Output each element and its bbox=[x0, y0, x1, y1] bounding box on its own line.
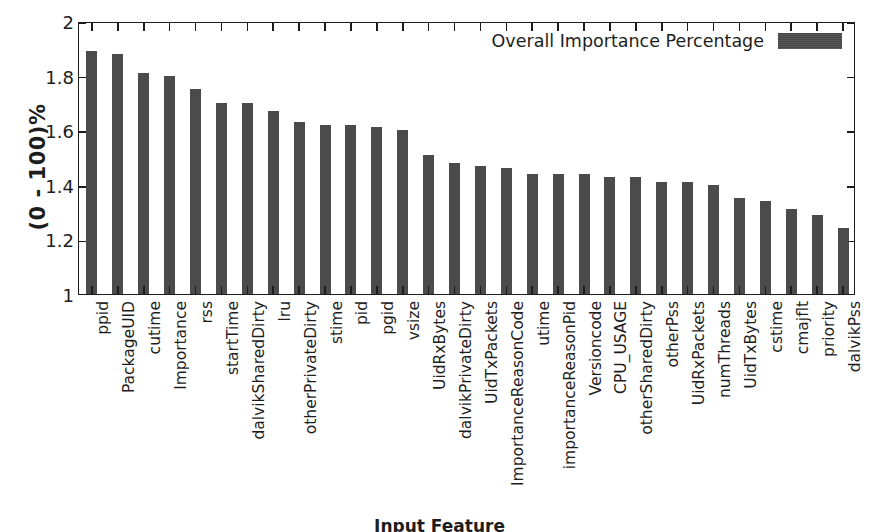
x-tick-label: dalvikSharedDirty bbox=[252, 301, 268, 440]
bar bbox=[294, 122, 305, 294]
x-tick-mark bbox=[272, 286, 274, 294]
bar bbox=[164, 76, 175, 294]
x-tick-mark bbox=[350, 286, 352, 294]
x-tick-label: rss bbox=[200, 301, 216, 324]
y-tick-mark bbox=[79, 131, 86, 133]
x-tick-mark bbox=[350, 23, 352, 31]
x-tick-mark bbox=[221, 23, 223, 31]
bar bbox=[760, 201, 771, 294]
x-tick-label: PackageUID bbox=[122, 301, 138, 393]
x-tick-mark bbox=[221, 286, 223, 294]
x-tick-label: ppid bbox=[96, 301, 112, 335]
bar bbox=[320, 125, 331, 294]
bar bbox=[786, 209, 797, 294]
x-tick-label: UidRxPackets bbox=[692, 301, 708, 405]
x-tick-label: numThreads bbox=[718, 301, 734, 398]
bar bbox=[423, 155, 434, 294]
bar bbox=[527, 174, 538, 294]
x-tick-mark bbox=[402, 286, 404, 294]
x-tick-label: Versioncode bbox=[589, 301, 605, 395]
x-tick-mark bbox=[117, 23, 119, 31]
legend-label: Overall Importance Percentage bbox=[492, 31, 764, 51]
x-tick-label: CPU_USAGE bbox=[614, 301, 630, 394]
bar bbox=[112, 54, 123, 294]
x-tick-mark bbox=[842, 286, 844, 294]
x-tick-mark bbox=[635, 286, 637, 294]
x-tick-mark bbox=[428, 23, 430, 31]
y-tick-label: 1 bbox=[30, 285, 74, 306]
x-tick-mark bbox=[272, 23, 274, 31]
bar bbox=[242, 103, 253, 294]
x-axis-tick-labels: ppidPackageUIDcutimeImportancerssstartTi… bbox=[78, 295, 855, 505]
x-tick-mark bbox=[195, 286, 197, 294]
x-tick-mark bbox=[454, 286, 456, 294]
x-tick-label: cstime bbox=[770, 301, 786, 353]
x-tick-mark bbox=[790, 286, 792, 294]
x-tick-mark bbox=[195, 23, 197, 31]
y-tick-label: 1.6 bbox=[30, 121, 74, 142]
x-tick-label: pgid bbox=[381, 301, 397, 335]
bar bbox=[708, 185, 719, 294]
x-tick-mark bbox=[609, 286, 611, 294]
x-tick-mark bbox=[376, 23, 378, 31]
x-tick-label: ImportanceReasonCode bbox=[511, 301, 527, 486]
bar bbox=[501, 168, 512, 294]
x-tick-mark bbox=[713, 286, 715, 294]
bar bbox=[449, 163, 460, 294]
bar bbox=[397, 130, 408, 294]
x-tick-label: stime bbox=[330, 301, 346, 344]
bar bbox=[216, 103, 227, 294]
y-tick-mark bbox=[79, 186, 86, 188]
y-tick-mark bbox=[847, 131, 854, 133]
x-tick-label: utime bbox=[537, 301, 553, 346]
x-tick-mark bbox=[143, 23, 145, 31]
x-tick-label: cmajflt bbox=[796, 301, 812, 354]
y-tick-mark bbox=[847, 77, 854, 79]
x-tick-mark bbox=[169, 286, 171, 294]
legend: Overall Importance Percentage bbox=[488, 29, 846, 53]
x-tick-mark bbox=[583, 286, 585, 294]
y-tick-label: 1.4 bbox=[30, 175, 74, 196]
x-tick-mark bbox=[402, 23, 404, 31]
y-tick-mark bbox=[79, 22, 86, 24]
bar bbox=[838, 228, 849, 294]
bar bbox=[475, 166, 486, 294]
x-tick-label: otherPss bbox=[666, 301, 682, 368]
x-tick-mark bbox=[169, 23, 171, 31]
bar bbox=[345, 125, 356, 294]
x-tick-label: otherPrivateDirty bbox=[304, 301, 320, 434]
x-tick-label: UidTxPackets bbox=[485, 301, 501, 404]
y-axis-tick-labels: 11.21.41.61.82 bbox=[22, 0, 74, 532]
x-tick-mark bbox=[687, 286, 689, 294]
x-tick-label: dalvikPss bbox=[848, 301, 864, 372]
plot-area: Overall Importance Percentage bbox=[78, 22, 855, 295]
x-tick-mark bbox=[739, 286, 741, 294]
x-tick-mark bbox=[324, 23, 326, 31]
x-tick-label: priority bbox=[822, 301, 838, 357]
x-tick-label: UidTxBytes bbox=[744, 301, 760, 389]
x-tick-mark bbox=[531, 286, 533, 294]
x-tick-mark bbox=[117, 286, 119, 294]
legend-color-swatch bbox=[778, 33, 842, 49]
x-tick-mark bbox=[428, 286, 430, 294]
y-tick-mark bbox=[847, 186, 854, 188]
y-tick-mark bbox=[79, 77, 86, 79]
plot-inner bbox=[79, 23, 854, 294]
x-tick-mark bbox=[298, 286, 300, 294]
x-tick-mark bbox=[143, 286, 145, 294]
x-tick-mark bbox=[480, 23, 482, 31]
bar bbox=[190, 89, 201, 294]
bar bbox=[138, 73, 149, 294]
bar bbox=[812, 215, 823, 294]
bar bbox=[656, 182, 667, 294]
x-tick-mark bbox=[557, 286, 559, 294]
x-tick-mark bbox=[816, 286, 818, 294]
bar bbox=[371, 127, 382, 294]
x-tick-label: importanceReasonPid bbox=[563, 301, 579, 469]
bar bbox=[682, 182, 693, 294]
x-tick-label: vsize bbox=[407, 301, 423, 340]
chart-figure: (0 - 100)% 11.21.41.61.82 Overall Import… bbox=[0, 0, 879, 532]
x-tick-mark bbox=[480, 286, 482, 294]
bar bbox=[86, 51, 97, 294]
y-tick-label: 1.2 bbox=[30, 230, 74, 251]
